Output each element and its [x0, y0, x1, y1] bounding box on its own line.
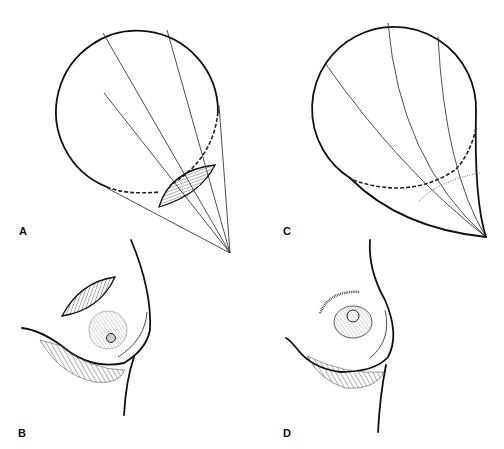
- panel-a: A: [19, 30, 230, 253]
- panel-d: D: [283, 240, 393, 439]
- breast-outline-circle: [56, 31, 218, 187]
- panel-b: B: [18, 240, 150, 439]
- excision-lens: [62, 277, 115, 316]
- figure: A C B: [0, 0, 504, 449]
- nipple: [107, 334, 116, 343]
- breast-outline-circle: [312, 27, 476, 178]
- areola: [89, 311, 127, 349]
- excision-lens: [159, 165, 215, 207]
- panel-label-a: A: [19, 225, 27, 237]
- panel-c: C: [283, 23, 486, 237]
- panel-label-b: B: [18, 427, 26, 439]
- breast-contour: [286, 240, 393, 372]
- panel-label-d: D: [283, 427, 291, 439]
- panel-label-c: C: [283, 225, 291, 237]
- inframammary-region: [307, 356, 384, 388]
